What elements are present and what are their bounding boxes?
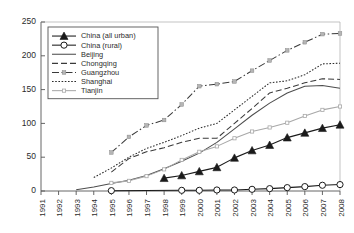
data-point-marker — [61, 42, 67, 48]
x-tick-label: 1993 — [73, 198, 82, 216]
x-tick-label: 1999 — [178, 198, 187, 216]
data-point-marker — [302, 184, 308, 190]
data-point-marker — [145, 175, 148, 178]
data-point-marker — [321, 108, 324, 111]
legend-label: Chongqing — [81, 59, 117, 68]
data-point-marker — [230, 154, 238, 161]
y-tick-label: 150 — [22, 84, 36, 94]
data-point-marker — [62, 89, 65, 92]
data-point-marker — [180, 103, 184, 107]
series-china-rural — [108, 181, 343, 193]
data-point-marker — [338, 32, 342, 36]
x-tick-label: 1994 — [90, 198, 99, 216]
legend-label: Guangzhou — [81, 68, 119, 77]
x-tick-label: 2002 — [231, 198, 240, 216]
y-tick-label: 250 — [22, 16, 36, 26]
data-point-marker — [321, 32, 325, 36]
data-point-marker — [319, 182, 325, 188]
x-tick-label: 2007 — [319, 198, 328, 216]
data-point-marker — [249, 186, 255, 192]
series-line — [76, 86, 340, 190]
data-point-marker — [179, 187, 185, 193]
data-point-marker — [233, 137, 236, 140]
data-point-marker — [250, 130, 253, 133]
x-tick-label: 2000 — [196, 198, 205, 216]
data-point-marker — [231, 187, 237, 193]
line-chart: 0501001502002501991199219931994199519961… — [0, 0, 354, 233]
data-point-marker — [180, 158, 183, 161]
x-tick-label: 1991 — [38, 198, 47, 216]
x-tick-label: 1996 — [125, 198, 134, 216]
data-point-marker — [145, 124, 149, 128]
data-point-marker — [213, 163, 221, 170]
x-tick-label: 1992 — [55, 198, 64, 216]
legend-label: China (rural) — [81, 41, 122, 50]
data-point-marker — [62, 71, 66, 75]
data-point-marker — [266, 141, 274, 148]
y-tick-label: 0 — [31, 185, 36, 195]
data-point-marker — [110, 151, 114, 155]
data-point-marker — [162, 118, 166, 122]
legend-label: Beijing — [81, 50, 103, 59]
data-point-marker — [233, 80, 237, 84]
data-point-marker — [286, 121, 289, 124]
data-point-marker — [215, 82, 219, 86]
y-tick-label: 200 — [22, 50, 36, 60]
x-tick-label: 1997 — [143, 198, 152, 216]
y-tick-label: 50 — [27, 151, 37, 161]
data-point-marker — [108, 188, 114, 194]
x-tick-label: 2005 — [284, 198, 293, 216]
x-tick-label: 2003 — [249, 198, 258, 216]
data-point-marker — [268, 126, 271, 129]
x-tick-label: 1995 — [108, 198, 117, 216]
data-point-marker — [338, 105, 341, 108]
data-point-marker — [198, 150, 201, 153]
data-point-marker — [197, 84, 201, 88]
data-point-marker — [267, 186, 273, 192]
x-tick-label: 2008 — [337, 198, 346, 216]
data-point-marker — [285, 49, 289, 53]
data-point-marker — [196, 187, 202, 193]
data-point-marker — [336, 121, 344, 128]
data-point-marker — [127, 135, 131, 139]
series-beijing — [76, 86, 340, 190]
x-tick-label: 2004 — [266, 198, 275, 216]
legend-label: Shanghai — [81, 77, 113, 86]
data-point-marker — [215, 145, 218, 148]
data-point-marker — [110, 181, 113, 184]
legend-label: Tianjin — [81, 86, 103, 95]
y-tick-label: 100 — [22, 118, 36, 128]
data-point-marker — [268, 59, 272, 63]
x-tick-label: 2006 — [301, 198, 310, 216]
data-point-marker — [303, 114, 306, 117]
data-point-marker — [337, 181, 343, 187]
data-point-marker — [303, 40, 307, 44]
x-tick-label: 1998 — [161, 198, 170, 216]
data-point-marker — [250, 69, 254, 73]
data-point-marker — [127, 179, 130, 182]
data-point-marker — [284, 185, 290, 191]
x-tick-label: 2001 — [213, 198, 222, 216]
chart-container: 0501001502002501991199219931994199519961… — [0, 0, 354, 233]
data-point-marker — [214, 187, 220, 193]
data-point-marker — [163, 168, 166, 171]
legend-label: China (all urban) — [81, 31, 136, 40]
series-tianjin — [110, 105, 342, 185]
